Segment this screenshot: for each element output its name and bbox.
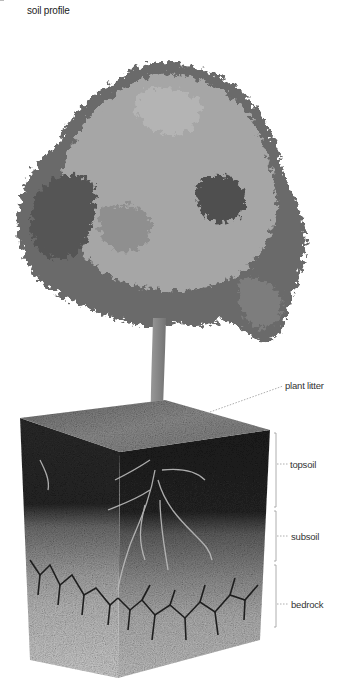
layer-brackets <box>274 433 276 627</box>
label-bedrock: bedrock <box>291 599 323 610</box>
label-topsoil: topsoil <box>290 459 316 470</box>
plant-litter-leader <box>210 386 283 412</box>
soil-side-face <box>118 430 270 678</box>
label-plant-litter: plant litter <box>285 380 324 391</box>
label-subsoil: subsoil <box>291 531 319 542</box>
soil-profile-illustration <box>0 0 337 679</box>
tree-canopy <box>18 62 306 341</box>
soil-front-face <box>20 418 120 678</box>
